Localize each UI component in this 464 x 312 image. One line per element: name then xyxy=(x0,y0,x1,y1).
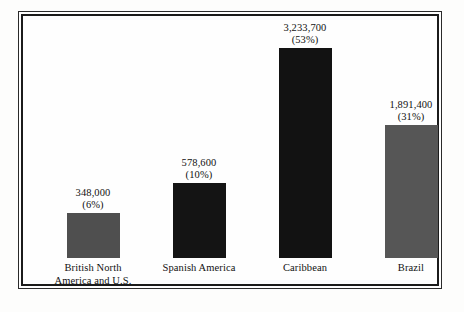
bar-rect-0 xyxy=(67,213,120,258)
bar-category-label-1: Spanish America xyxy=(147,262,251,275)
bar-category-label-0: British North America and U.S. xyxy=(41,262,145,287)
bar-category-label-3: Brazil xyxy=(359,262,463,275)
bar-group-brazil: 1,891,400 (31%) Brazil xyxy=(359,99,463,258)
bar-value-number-0: 348,000 xyxy=(76,187,111,198)
bar-category-label-2: Caribbean xyxy=(253,262,357,275)
bar-value-percent-0: (6%) xyxy=(76,199,111,211)
bar-value-label-0: 348,000 (6%) xyxy=(76,187,111,210)
bar-value-percent-2: (53%) xyxy=(284,34,327,46)
bar-value-label-1: 578,600 (10%) xyxy=(182,157,217,180)
bar-rect-1 xyxy=(173,183,226,258)
bar-value-number-3: 1,891,400 xyxy=(390,99,433,110)
bar-series: 348,000 (6%) British North America and U… xyxy=(23,16,437,284)
bar-value-label-3: 1,891,400 (31%) xyxy=(390,99,433,122)
chart-plot-area: 348,000 (6%) British North America and U… xyxy=(23,16,437,284)
bar-group-british-north-america: 348,000 (6%) British North America and U… xyxy=(41,187,145,258)
bar-value-number-2: 3,233,700 xyxy=(284,22,327,33)
bar-value-percent-3: (31%) xyxy=(390,111,433,123)
bar-value-percent-1: (10%) xyxy=(182,169,217,181)
bar-value-label-2: 3,233,700 (53%) xyxy=(284,22,327,45)
bar-rect-2 xyxy=(279,48,332,258)
bar-group-caribbean: 3,233,700 (53%) Caribbean xyxy=(253,22,357,258)
bar-group-spanish-america: 578,600 (10%) Spanish America xyxy=(147,157,251,258)
chart-figure: 348,000 (6%) British North America and U… xyxy=(0,0,464,312)
bar-value-number-1: 578,600 xyxy=(182,157,217,168)
bar-rect-3 xyxy=(385,125,438,258)
